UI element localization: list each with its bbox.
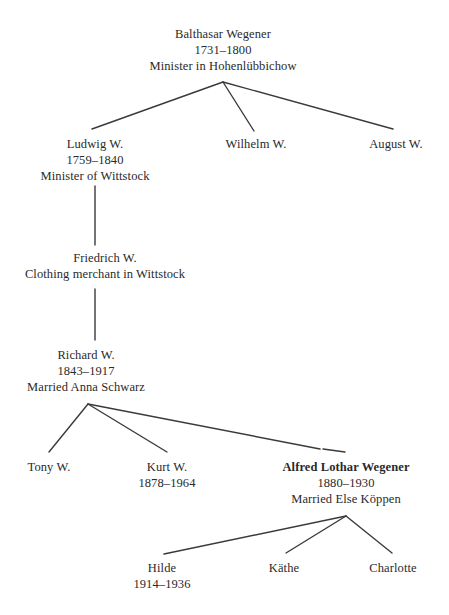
node-balthasar: Balthasar Wegener 1731–1800 Minister in … bbox=[149, 26, 296, 74]
node-dates: 1914–1936 bbox=[133, 576, 190, 592]
node-kurt: Kurt W. 1878–1964 bbox=[138, 459, 195, 491]
node-name: Käthe bbox=[269, 560, 299, 576]
edge-alfred-hilde bbox=[164, 516, 346, 554]
node-name: Alfred Lothar Wegener bbox=[282, 459, 409, 475]
node-dates: 1759–1840 bbox=[41, 152, 150, 168]
node-alfred: Alfred Lothar Wegener 1880–1930 Married … bbox=[282, 459, 409, 507]
node-dates: 1731–1800 bbox=[149, 42, 296, 58]
node-august: August W. bbox=[369, 136, 423, 152]
node-tony: Tony W. bbox=[28, 459, 71, 475]
edge-alfred-charlotte bbox=[346, 516, 392, 553]
node-name: Richard W. bbox=[27, 347, 145, 363]
node-name: Kurt W. bbox=[138, 459, 195, 475]
node-note: Married Anna Schwarz bbox=[27, 379, 145, 395]
node-wilhelm: Wilhelm W. bbox=[226, 136, 287, 152]
node-dates: 1878–1964 bbox=[138, 475, 195, 491]
node-kaethe: Käthe bbox=[269, 560, 299, 576]
node-hilde: Hilde 1914–1936 bbox=[133, 560, 190, 592]
node-note: Minister of Wittstock bbox=[41, 168, 150, 184]
edge-balthasar-ludwig bbox=[92, 82, 223, 129]
node-name: Ludwig W. bbox=[41, 136, 150, 152]
node-dates: 1880–1930 bbox=[282, 475, 409, 491]
edge-richard-alfred-b bbox=[323, 449, 345, 452]
tree-connectors bbox=[0, 0, 449, 615]
node-note: Minister in Hohenlübbichow bbox=[149, 58, 296, 74]
node-name: Wilhelm W. bbox=[226, 136, 287, 152]
node-name: Tony W. bbox=[28, 459, 71, 475]
node-name: August W. bbox=[369, 136, 423, 152]
node-ludwig: Ludwig W. 1759–1840 Minister of Wittstoc… bbox=[41, 136, 150, 184]
node-friedrich: Friedrich W. Clothing merchant in Wittst… bbox=[25, 250, 185, 282]
edge-richard-tony bbox=[49, 404, 88, 452]
edge-richard-alfred-a bbox=[88, 404, 320, 449]
node-name: Balthasar Wegener bbox=[149, 26, 296, 42]
node-note: Clothing merchant in Wittstock bbox=[25, 266, 185, 282]
node-richard: Richard W. 1843–1917 Married Anna Schwar… bbox=[27, 347, 145, 395]
node-dates: 1843–1917 bbox=[27, 363, 145, 379]
node-name: Charlotte bbox=[369, 560, 416, 576]
node-name: Friedrich W. bbox=[25, 250, 185, 266]
node-note: Married Else Köppen bbox=[282, 491, 409, 507]
node-charlotte: Charlotte bbox=[369, 560, 416, 576]
node-name: Hilde bbox=[133, 560, 190, 576]
